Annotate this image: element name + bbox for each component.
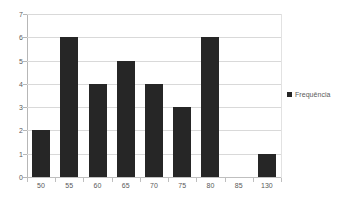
bar-75[interactable] xyxy=(173,107,191,177)
y-tick-mark-4 xyxy=(23,84,27,85)
bar-70[interactable] xyxy=(145,84,163,177)
x-tick-mark-0 xyxy=(27,178,28,182)
x-tick-mark-5 xyxy=(168,178,169,182)
bar-60[interactable] xyxy=(89,84,107,177)
x-tick-label-65: 65 xyxy=(122,182,130,189)
bar-slot-60 xyxy=(83,14,111,177)
y-tick-label-4: 4 xyxy=(1,80,23,87)
bar-130[interactable] xyxy=(258,154,276,177)
x-tick-mark-4 xyxy=(140,178,141,182)
legend-square-marker xyxy=(287,92,292,97)
chart-legend: Frequência xyxy=(287,91,331,98)
plot-right-border xyxy=(281,14,282,178)
legend-label: Frequência xyxy=(295,91,331,98)
x-tick-mark-1 xyxy=(55,178,56,182)
y-tick-mark-1 xyxy=(23,154,27,155)
y-tick-label-2: 2 xyxy=(1,127,23,134)
x-tick-label-80: 80 xyxy=(206,182,214,189)
x-tick-label-75: 75 xyxy=(178,182,186,189)
bar-50[interactable] xyxy=(32,130,50,177)
x-tick-label-130: 130 xyxy=(261,182,273,189)
x-tick-label-60: 60 xyxy=(94,182,102,189)
bar-80[interactable] xyxy=(201,37,219,177)
x-tick-label-55: 55 xyxy=(65,182,73,189)
bar-slot-70 xyxy=(140,14,168,177)
x-tick-mark-end xyxy=(281,178,282,182)
bar-55[interactable] xyxy=(60,37,78,177)
gridline-0 xyxy=(27,177,281,178)
bar-slot-75 xyxy=(168,14,196,177)
bar-slot-50 xyxy=(27,14,55,177)
y-tick-label-6: 6 xyxy=(1,34,23,41)
x-tick-label-70: 70 xyxy=(150,182,158,189)
bar-slot-85 xyxy=(225,14,253,177)
bar-slot-65 xyxy=(112,14,140,177)
y-tick-label-0: 0 xyxy=(1,174,23,181)
plot-area xyxy=(27,14,281,177)
y-tick-label-5: 5 xyxy=(1,57,23,64)
bar-65[interactable] xyxy=(117,61,135,177)
x-tick-label-85: 85 xyxy=(235,182,243,189)
y-axis: 01234567 xyxy=(0,0,23,204)
x-tick-mark-6 xyxy=(196,178,197,182)
y-tick-label-7: 7 xyxy=(1,11,23,18)
x-tick-mark-8 xyxy=(253,178,254,182)
y-tick-mark-2 xyxy=(23,130,27,131)
x-tick-mark-7 xyxy=(225,178,226,182)
bar-slot-130 xyxy=(253,14,281,177)
bar-slot-80 xyxy=(196,14,224,177)
y-tick-mark-6 xyxy=(23,37,27,38)
y-tick-mark-3 xyxy=(23,107,27,108)
x-tick-mark-3 xyxy=(112,178,113,182)
y-tick-mark-5 xyxy=(23,61,27,62)
bar-chart: 01234567 Frequência 5055606570758085130 xyxy=(0,0,348,204)
x-tick-mark-2 xyxy=(83,178,84,182)
bar-slot-55 xyxy=(55,14,83,177)
y-tick-label-3: 3 xyxy=(1,104,23,111)
y-tick-mark-7 xyxy=(23,14,27,15)
y-tick-label-1: 1 xyxy=(1,150,23,157)
x-tick-label-50: 50 xyxy=(37,182,45,189)
